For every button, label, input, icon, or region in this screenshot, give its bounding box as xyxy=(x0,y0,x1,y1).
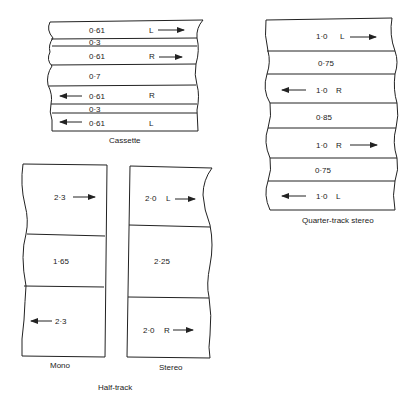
stereo-band-1-value: 2·0 xyxy=(145,194,157,203)
stereo-band-3-value: 2·0 xyxy=(143,326,155,335)
cassette-band-6-value: 0·3 xyxy=(89,105,101,114)
stereo-band-1-channel: L xyxy=(166,194,171,203)
cassette-band-2-value: 0·3 xyxy=(89,38,101,47)
quarter-band-1-channel: L xyxy=(340,32,345,41)
stereo-band-3-channel: R xyxy=(164,326,170,335)
cassette-diagram: 0·61 L 0·3 0·61 R 0·7 0·61 R 0·3 0·61 L … xyxy=(48,20,204,145)
quarter-band-3-channel: R xyxy=(336,86,342,95)
cassette-band-4-value: 0·7 xyxy=(89,72,101,81)
quarter-band-7-channel: L xyxy=(336,192,341,201)
quarter-track-diagram: 1·0 L 0·75 1·0 R 0·85 1·0 R 0·75 1·0 L Q… xyxy=(265,18,398,225)
cassette-caption: Cassette xyxy=(109,136,141,145)
cassette-band-7-value: 0·61 xyxy=(89,119,106,128)
mono-band-1-value: 2·3 xyxy=(54,193,66,202)
cassette-band-5-channel: R xyxy=(149,91,155,100)
mono-band-3-value: 2·3 xyxy=(55,317,67,326)
mono-band-2-value: 1·65 xyxy=(53,257,70,266)
quarter-band-7-value: 1·0 xyxy=(316,192,328,201)
half-track-mono-diagram: 2·3 1·65 2·3 Mono xyxy=(22,164,107,370)
quarter-band-4-value: 0·85 xyxy=(316,113,333,122)
cassette-band-1-value: 0·61 xyxy=(89,26,106,35)
cassette-band-1-channel: L xyxy=(149,26,154,35)
quarter-band-5-value: 1·0 xyxy=(316,141,328,150)
cassette-band-3-channel: R xyxy=(149,52,155,61)
quarter-band-3-value: 1·0 xyxy=(316,86,328,95)
quarter-band-5-channel: R xyxy=(336,141,342,150)
cassette-band-7-channel: L xyxy=(149,119,154,128)
tape-track-diagram: 0·61 L 0·3 0·61 R 0·7 0·61 R 0·3 0·61 L … xyxy=(0,0,418,404)
quarter-track-caption: Quarter-track stereo xyxy=(302,216,374,225)
stereo-band-2-value: 2·25 xyxy=(154,257,171,266)
half-track-caption: Half-track xyxy=(98,383,133,392)
cassette-band-5-value: 0·61 xyxy=(89,92,106,101)
cassette-band-3-value: 0·61 xyxy=(89,52,106,61)
mono-caption: Mono xyxy=(50,361,71,370)
half-track-stereo-diagram: 2·0 L 2·25 2·0 R Stereo xyxy=(127,166,212,372)
quarter-band-1-value: 1·0 xyxy=(316,32,328,41)
quarter-band-2-value: 0·75 xyxy=(318,59,335,68)
stereo-caption: Stereo xyxy=(159,363,183,372)
quarter-band-6-value: 0·75 xyxy=(315,166,332,175)
